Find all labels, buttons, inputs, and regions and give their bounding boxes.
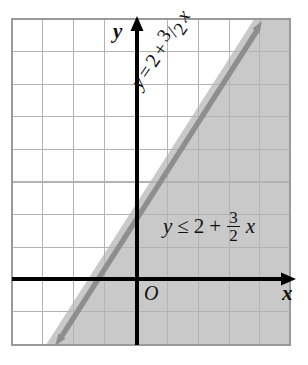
origin-label: O	[144, 283, 158, 303]
inequality-fraction-denominator: 2	[227, 226, 240, 244]
y-axis-label: y	[113, 21, 122, 42]
inequality-graph-figure: y x O y = 2 + 3 / 2 x y ≤ 2 + 3 2 x	[0, 0, 308, 365]
inequality-variable: x	[246, 216, 255, 237]
inequality-lhs: y	[163, 216, 172, 237]
inequality-plus: +	[209, 216, 221, 237]
inequality-label: y ≤ 2 + 3 2 x	[163, 209, 255, 245]
inequality-fraction-numerator: 3	[227, 209, 240, 226]
inequality-fraction: 3 2	[227, 209, 240, 245]
x-axis-label: x	[282, 283, 293, 304]
inequality-relation: ≤	[177, 216, 189, 237]
inequality-constant: 2	[194, 216, 205, 237]
